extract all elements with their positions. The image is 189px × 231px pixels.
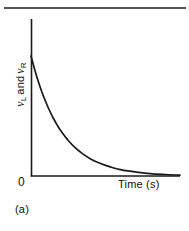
y-axis-label-var-2: v [13,68,27,74]
y-axis-label-conjunction: and [14,74,26,97]
exponential-decay-curve [31,56,180,175]
y-axis-label-var-1: v [13,101,27,107]
x-axis-label: Time (s) [118,178,160,190]
y-axis-label-sub-1: L [19,97,28,102]
y-axis-label-sub-2: R [19,62,28,68]
figure-container: vLandvR 0 Time (s) (a) [0,0,189,231]
figure-caption: (a) [15,203,29,215]
origin-tick-label: 0 [18,176,25,188]
plot-canvas [0,0,189,231]
y-axis-label: vLandvR [13,55,28,115]
